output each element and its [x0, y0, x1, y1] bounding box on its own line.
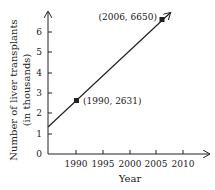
chart: 0 1 2 3 4 5 6 1990 1995 2000 2005 2010 Y…: [0, 0, 215, 190]
svg-text:(in thousands): (in thousands): [21, 54, 32, 127]
data-point-1990: [74, 98, 79, 103]
svg-text:4: 4: [36, 68, 42, 78]
point-label-2006: (2006, 6650): [98, 12, 157, 22]
x-axis-title: Year: [118, 173, 142, 184]
data-point-2006: [160, 17, 165, 22]
svg-text:2000: 2000: [119, 159, 142, 169]
y-tick-labels: 0 1 2 3 4 5 6: [36, 27, 42, 159]
svg-text:1: 1: [36, 129, 42, 139]
svg-text:Number of liver transplants: Number of liver transplants: [8, 19, 19, 160]
svg-text:3: 3: [36, 88, 42, 98]
svg-text:0: 0: [36, 149, 42, 159]
svg-text:1990: 1990: [65, 159, 88, 169]
svg-text:2005: 2005: [145, 159, 168, 169]
svg-text:2010: 2010: [172, 159, 195, 169]
x-ticks: [76, 150, 183, 154]
y-axis-title: Number of liver transplants (in thousand…: [8, 19, 32, 160]
trend-line: [48, 13, 170, 127]
svg-text:6: 6: [36, 27, 42, 37]
svg-text:1995: 1995: [92, 159, 115, 169]
svg-text:2: 2: [36, 108, 42, 118]
point-label-1990: (1990, 2631): [83, 96, 142, 106]
x-tick-labels: 1990 1995 2000 2005 2010: [65, 159, 195, 169]
y-ticks: [48, 32, 52, 134]
svg-text:5: 5: [36, 47, 42, 57]
